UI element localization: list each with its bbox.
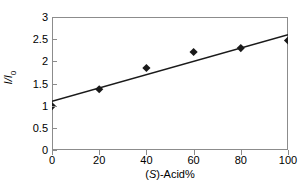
trend-line	[52, 35, 288, 102]
y-tick-label: 0.5	[2, 123, 48, 133]
y-tick-mark	[52, 39, 57, 40]
data-point-marker	[142, 64, 150, 72]
y-axis-title: I/I0	[2, 70, 17, 86]
y-tick-label: 3	[2, 12, 48, 22]
data-point-marker	[237, 44, 245, 52]
y-tick-mark	[52, 106, 57, 107]
y-tick-mark	[52, 61, 57, 62]
y-tick-label: 2	[2, 56, 48, 66]
chart-data-layer	[52, 17, 288, 150]
data-point-marker	[284, 36, 288, 44]
x-tick-mark	[241, 150, 242, 155]
x-tick-mark	[52, 150, 53, 155]
x-tick-mark	[194, 150, 195, 155]
x-axis-tick-labels: 020406080100	[52, 152, 288, 168]
y-tick-label: 1	[2, 101, 48, 111]
x-axis-title: (S)-Acid%	[52, 168, 288, 180]
x-tick-label: 80	[221, 154, 261, 166]
x-tick-label: 0	[32, 154, 72, 166]
data-point-marker	[190, 48, 198, 56]
chart-container: 00.511.522.53 020406080100 (S)-Acid% I/I…	[0, 0, 302, 188]
x-tick-mark	[99, 150, 100, 155]
x-tick-label: 100	[268, 154, 302, 166]
y-tick-mark	[52, 17, 57, 18]
x-tick-label: 20	[79, 154, 119, 166]
x-tick-mark	[288, 150, 289, 155]
x-tick-label: 60	[174, 154, 214, 166]
y-tick-label: 2.5	[2, 34, 48, 44]
x-tick-label: 40	[126, 154, 166, 166]
y-tick-mark	[52, 128, 57, 129]
x-tick-mark	[146, 150, 147, 155]
y-tick-mark	[52, 84, 57, 85]
